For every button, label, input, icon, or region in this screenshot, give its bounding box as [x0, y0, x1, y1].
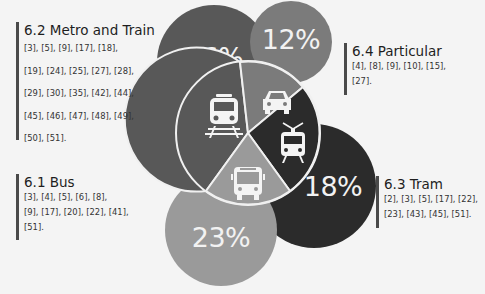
ref-line: [4], [8], [9], [10], [15],: [352, 59, 446, 74]
ref-line: [29], [30], [35], [42], [44],: [24, 82, 155, 105]
legend-particular-title: 6.4 Particular: [352, 43, 446, 59]
legend-metro-title: 6.2 Metro and Train: [24, 22, 155, 38]
legend-bus-title: 6.1 Bus: [24, 174, 129, 190]
ref-line: [23], [43], [45], [51].: [384, 207, 478, 222]
ref-line: [9], [17], [20], [22], [41],: [24, 205, 129, 220]
ref-line: [27].: [352, 74, 446, 89]
legend-tram: 6.3 Tram [2], [3], [5], [17], [22], [23]…: [376, 176, 478, 228]
ref-line: [3], [4], [5], [6], [8],: [24, 190, 129, 205]
ref-line: [51].: [24, 220, 129, 235]
ref-line: [50], [51].: [24, 127, 155, 150]
legend-particular: 6.4 Particular [4], [8], [9], [10], [15]…: [344, 43, 446, 95]
legend-metro-refs: [3], [5], [9], [17], [18], [19], [24], […: [24, 37, 155, 150]
ref-line: [2], [3], [5], [17], [22],: [384, 192, 478, 207]
ref-line: [19], [24], [25], [27], [28],: [24, 60, 155, 83]
legend-tram-refs: [2], [3], [5], [17], [22], [23], [43], […: [384, 192, 478, 222]
legend-bus-refs: [3], [4], [5], [6], [8], [9], [17], [20]…: [24, 190, 129, 235]
legend-tram-title: 6.3 Tram: [384, 176, 478, 192]
legend-metro-and-train: 6.2 Metro and Train [3], [5], [9], [17],…: [16, 22, 155, 140]
legend-bus: 6.1 Bus [3], [4], [5], [6], [8], [9], [1…: [16, 174, 129, 240]
legend-particular-refs: [4], [8], [9], [10], [15], [27].: [352, 59, 446, 89]
ref-line: [3], [5], [9], [17], [18],: [24, 37, 155, 60]
ref-line: [45], [46], [47], [48], [49],: [24, 105, 155, 128]
